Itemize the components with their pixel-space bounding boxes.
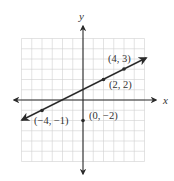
- point-4-3: [122, 67, 126, 71]
- label-4-3: (4, 3): [108, 53, 131, 65]
- label-neg4-neg1: (−4, −1): [34, 115, 69, 127]
- coordinate-plane: x y (4, 3) (2, 2) (−4, −1) (0, −2): [0, 0, 174, 181]
- x-axis-label: x: [162, 94, 168, 106]
- point-neg4-neg1: [40, 109, 44, 113]
- point-0-neg2: [81, 119, 85, 123]
- y-axis-label: y: [78, 10, 84, 22]
- point-2-2: [102, 78, 106, 82]
- label-2-2: (2, 2): [109, 79, 132, 91]
- label-0-neg2: (0, −2): [89, 110, 118, 122]
